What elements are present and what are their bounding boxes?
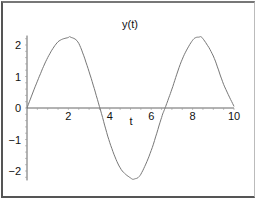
y-tick-label: −2	[8, 165, 21, 177]
axes	[25, 36, 234, 181]
x-tick-label: 10	[228, 110, 240, 122]
chart-canvas: y(t) 246810210−1−2 t	[0, 0, 259, 206]
x-tick-label: 4	[107, 110, 113, 122]
x-tick-label: 8	[190, 110, 196, 122]
x-tick-label: 2	[65, 110, 71, 122]
x-axis-label: t	[129, 115, 132, 127]
y-tick-label: 2	[15, 39, 21, 51]
y-tick-label: −1	[8, 134, 21, 146]
y-tick-label: 0	[15, 102, 21, 114]
y-tick-label: 1	[15, 71, 21, 83]
chart-title: y(t)	[122, 18, 138, 30]
x-tick-label: 6	[148, 110, 154, 122]
